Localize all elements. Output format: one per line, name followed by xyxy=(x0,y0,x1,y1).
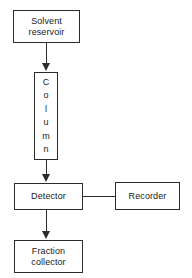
node-column-letter: m xyxy=(42,130,50,144)
edge-reservoir-to-column-arrowhead-icon xyxy=(42,63,50,71)
node-recorder: Recorder xyxy=(115,182,180,210)
edge-detector-to-fraction-collector-arrowhead-icon xyxy=(42,231,50,239)
node-column-letter: u xyxy=(43,116,48,130)
node-detector: Detector xyxy=(14,183,83,210)
edge-detector-to-fraction-collector-line xyxy=(46,210,47,233)
node-column-letter: n xyxy=(43,143,48,157)
edge-detector-to-recorder-line xyxy=(83,196,115,197)
node-fraction-collector-label: Fraction collector xyxy=(31,246,65,268)
node-column-letter: o xyxy=(43,89,48,103)
node-column-letter: l xyxy=(45,103,47,117)
diagram-canvas: Solvent reservoir C o l u m n Detector R… xyxy=(0,0,192,278)
node-recorder-label: Recorder xyxy=(129,191,167,202)
node-column-letter: C xyxy=(43,76,50,90)
node-column-label: C o l u m n xyxy=(42,76,50,157)
node-solvent-reservoir-label: Solvent reservoir xyxy=(29,16,65,38)
node-fraction-collector: Fraction collector xyxy=(14,240,83,273)
node-column: C o l u m n xyxy=(34,72,58,160)
edge-column-to-detector-arrowhead-icon xyxy=(42,174,50,182)
node-detector-label: Detector xyxy=(31,191,66,202)
node-solvent-reservoir: Solvent reservoir xyxy=(13,10,80,43)
edge-reservoir-to-column-line xyxy=(46,43,47,65)
